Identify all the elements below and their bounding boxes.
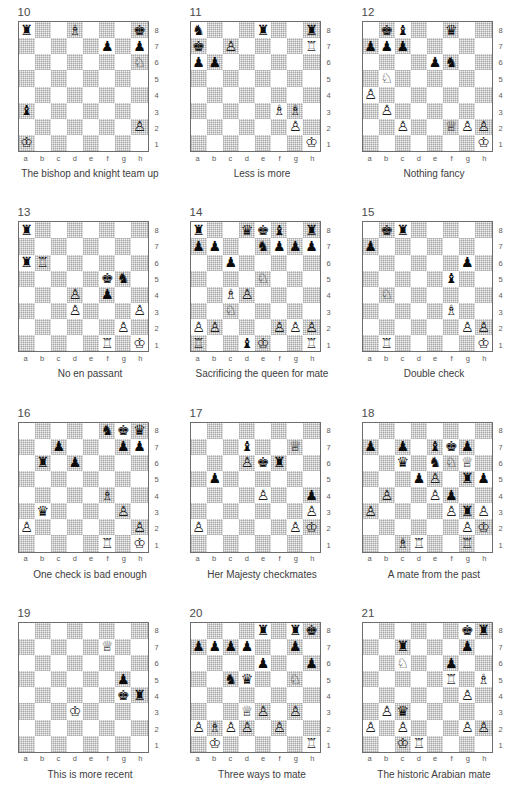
square-a3[interactable] [191,303,207,319]
square-d4[interactable]: ♙ [239,287,255,303]
square-f8[interactable] [99,222,115,238]
square-g6[interactable] [115,255,131,271]
piece-wP-h2[interactable]: ♙ [133,520,146,534]
square-h6[interactable]: ♘ [131,54,147,70]
square-d3[interactable]: ♙ [67,303,83,319]
square-b4[interactable] [207,87,223,103]
square-e5[interactable]: ♘ [255,271,271,287]
square-h4[interactable] [475,87,491,103]
square-e2[interactable] [427,119,443,135]
square-f4[interactable] [99,687,115,703]
square-d7[interactable] [411,639,427,655]
piece-wB-c4[interactable]: ♗ [225,287,238,301]
piece-bP-e6[interactable]: ♟ [429,55,442,69]
square-c2[interactable] [395,519,411,535]
piece-bK-f5[interactable]: ♚ [101,271,114,285]
square-e1[interactable] [427,736,443,752]
piece-bQ-d5[interactable]: ♛ [241,672,254,686]
square-g7[interactable] [115,38,131,54]
piece-wP-a3[interactable]: ♙ [364,504,377,518]
square-g3[interactable] [459,103,475,119]
square-e3[interactable] [427,503,443,519]
square-e5[interactable] [83,70,99,86]
piece-bP-h4[interactable]: ♟ [305,488,318,502]
square-c7[interactable] [223,238,239,254]
square-f1[interactable]: ♖ [99,335,115,351]
square-f8[interactable] [99,623,115,639]
square-f2[interactable] [271,519,287,535]
square-g5[interactable] [459,671,475,687]
piece-wQ-g6[interactable]: ♕ [461,455,474,469]
square-d2[interactable] [239,319,255,335]
piece-bQ-c3[interactable]: ♛ [397,704,410,718]
square-b2[interactable] [35,119,51,135]
square-d3[interactable]: ♔ [67,703,83,719]
square-d4[interactable]: ♙ [67,287,83,303]
piece-bQ-h8[interactable]: ♛ [133,423,146,437]
square-g7[interactable] [459,238,475,254]
square-h8[interactable] [303,423,319,439]
piece-wB-b2[interactable]: ♗ [208,720,221,734]
piece-bP-a7[interactable]: ♟ [192,639,205,653]
square-d3[interactable] [239,303,255,319]
square-f4[interactable] [271,287,287,303]
square-c7[interactable] [223,439,239,455]
square-b5[interactable] [35,271,51,287]
square-e5[interactable] [83,671,99,687]
square-b4[interactable] [35,87,51,103]
square-b7[interactable] [379,639,395,655]
square-a5[interactable] [363,70,379,86]
square-e7[interactable] [255,439,271,455]
square-e8[interactable] [427,623,443,639]
piece-bK-g8[interactable]: ♚ [117,423,130,437]
piece-bP-b6[interactable]: ♟ [208,55,221,69]
square-h8[interactable] [475,423,491,439]
chessboard[interactable]: ♜♛♚♝♜♟♟♞♟♟♟♟♘♗♙♘♙♙♙♙♙♖♝♔♖87654321abcdefg… [190,221,335,364]
square-e7[interactable]: ♝ [427,439,443,455]
square-h2[interactable]: ♙ [475,119,491,135]
square-d4[interactable] [67,487,83,503]
square-c5[interactable] [395,70,411,86]
square-g8[interactable] [287,222,303,238]
square-a1[interactable] [363,335,379,351]
square-b1[interactable] [379,535,395,551]
square-d2[interactable] [411,519,427,535]
square-a5[interactable] [363,671,379,687]
square-b2[interactable]: ♙ [207,319,223,335]
square-e3[interactable] [255,103,271,119]
square-f1[interactable] [443,335,459,351]
square-f6[interactable]: ♜ [271,455,287,471]
square-d4[interactable] [239,487,255,503]
piece-bP-h7[interactable]: ♟ [133,39,146,53]
square-h1[interactable]: ♔ [475,335,491,351]
square-f5[interactable] [271,271,287,287]
square-f8[interactable]: ♛ [443,22,459,38]
square-d7[interactable] [239,238,255,254]
square-h6[interactable] [131,455,147,471]
square-d6[interactable] [67,255,83,271]
square-f5[interactable]: ♝ [443,271,459,287]
square-f6[interactable] [271,255,287,271]
square-e1[interactable] [83,335,99,351]
square-c4[interactable] [223,487,239,503]
piece-bN-e6[interactable]: ♞ [429,455,442,469]
square-g5[interactable] [115,70,131,86]
piece-wP-d3[interactable]: ♙ [69,303,82,317]
square-h4[interactable] [303,87,319,103]
square-d5[interactable]: ♟ [411,471,427,487]
square-f3[interactable]: ♗ [443,303,459,319]
square-e3[interactable]: ♙ [255,703,271,719]
square-e1[interactable] [255,736,271,752]
piece-wP-d2[interactable]: ♙ [241,720,254,734]
square-a3[interactable] [363,703,379,719]
square-a4[interactable] [363,687,379,703]
square-d1[interactable] [67,135,83,151]
square-c8[interactable] [223,222,239,238]
piece-wK-c1[interactable]: ♔ [397,736,410,750]
square-a8[interactable] [363,423,379,439]
chessboard[interactable]: ♟♟♝♚♟♛♞♘♕♟♙♜♟♙♙♟♙♙♜♙♙♔♗♖♖87654321abcdefg… [362,422,507,565]
square-c5[interactable] [223,271,239,287]
square-f5[interactable]: ♖ [443,671,459,687]
square-f1[interactable] [443,135,459,151]
piece-bR-h4[interactable]: ♜ [133,688,146,702]
